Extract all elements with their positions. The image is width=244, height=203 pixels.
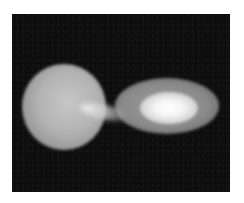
image-description: Grayscale rendering of a binary star sys… <box>0 0 1 1</box>
accretion-disk-core <box>140 92 198 124</box>
image-frame <box>12 14 230 192</box>
